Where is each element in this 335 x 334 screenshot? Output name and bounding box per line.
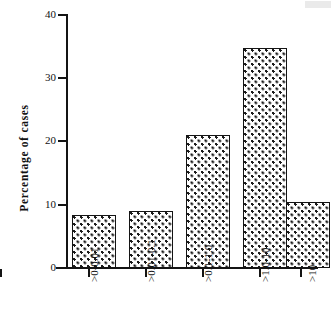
y-tick-mark (58, 204, 67, 206)
x-tick-label-4: >10 (306, 202, 319, 282)
y-tick-label: 40 (30, 9, 56, 20)
x-tick-label-0: >0-0.01 (88, 202, 101, 282)
x-tick-label-2: >0.1-1.0 (202, 202, 215, 282)
x-tick-mark (300, 269, 302, 277)
y-tick-mark (58, 77, 67, 79)
bar-chart-figure: Percentage of cases 0 10 20 30 40 >0-0.0… (0, 0, 335, 334)
y-tick-label: 30 (30, 72, 56, 83)
y-tick-label: 0 (30, 262, 56, 273)
y-tick-label: 20 (30, 135, 56, 146)
y-tick-mark (58, 140, 67, 142)
scan-artifact (305, 1, 331, 8)
y-axis-ticks: 0 10 20 30 40 (0, 0, 56, 334)
x-tick-mark (0, 269, 2, 277)
y-tick-mark (58, 267, 67, 269)
y-tick-mark (58, 14, 67, 16)
x-tick-label-3: >1.0-10 (259, 202, 272, 282)
y-tick-label: 10 (30, 199, 56, 210)
x-tick-label-1: >0.01-0.1 (145, 202, 158, 282)
